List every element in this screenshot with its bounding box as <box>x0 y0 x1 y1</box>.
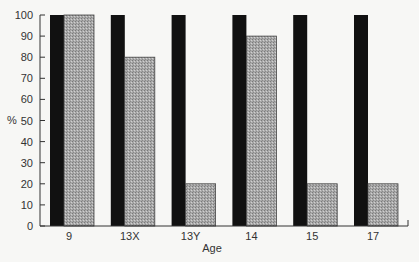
bar-black-13Y <box>172 15 186 226</box>
x-tick-label: 13Y <box>181 230 201 242</box>
y-tick-label: 0 <box>27 220 33 232</box>
bar-black-9 <box>50 15 64 226</box>
y-axis-title: % <box>7 114 17 126</box>
bar-gray-9 <box>64 15 94 226</box>
bar-gray-17 <box>368 184 398 226</box>
bar-gray-15 <box>307 184 337 226</box>
x-axis-title: Age <box>202 242 222 254</box>
x-tick-label: 13X <box>120 230 140 242</box>
x-tick-label: 17 <box>367 230 379 242</box>
x-tick-label: 15 <box>306 230 318 242</box>
bar-gray-14 <box>246 36 276 226</box>
y-tick-label: 30 <box>21 157 33 169</box>
bar-black-17 <box>354 15 368 226</box>
y-tick-label: 60 <box>21 93 33 105</box>
x-tick-label: 9 <box>66 230 72 242</box>
x-tick-label: 14 <box>245 230 257 242</box>
bar-black-13X <box>111 15 125 226</box>
bar-black-14 <box>232 15 246 226</box>
y-tick-label: 100 <box>15 9 33 21</box>
bar-black-15 <box>293 15 307 226</box>
y-tick-label: 40 <box>21 136 33 148</box>
bars <box>50 15 398 226</box>
y-axis: 0102030405060708090100 <box>15 9 45 232</box>
bar-gray-13X <box>125 57 155 226</box>
y-tick-label: 70 <box>21 72 33 84</box>
y-tick-label: 80 <box>21 51 33 63</box>
y-tick-label: 90 <box>21 30 33 42</box>
bar-chart: 0102030405060708090100 913X13Y141517 % A… <box>0 0 419 262</box>
y-tick-label: 10 <box>21 199 33 211</box>
bar-gray-13Y <box>186 184 216 226</box>
y-tick-label: 50 <box>21 115 33 127</box>
y-tick-label: 20 <box>21 178 33 190</box>
x-axis: 913X13Y141517 <box>40 220 408 242</box>
